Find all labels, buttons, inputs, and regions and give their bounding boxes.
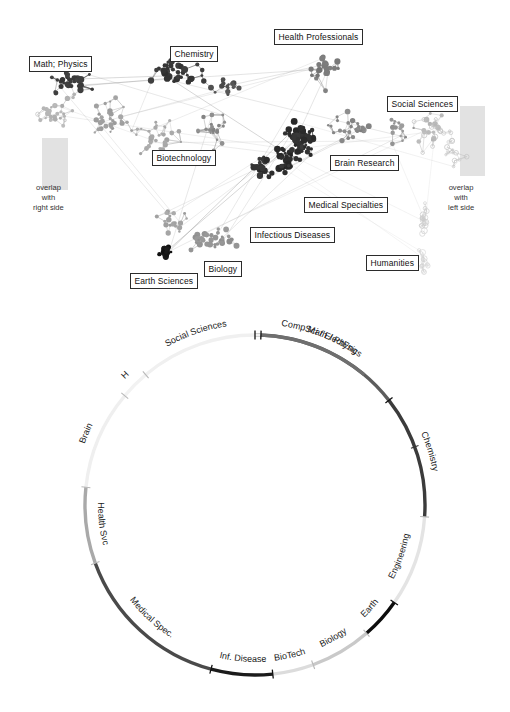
network-node (94, 131, 96, 133)
network-node (357, 125, 360, 128)
network-node (294, 144, 297, 147)
network-node (218, 240, 220, 242)
network-node (269, 170, 274, 175)
network-node (78, 76, 85, 83)
arc-label-h: H (119, 369, 131, 381)
network-node (251, 164, 258, 171)
arc-segment-social-sciences (146, 335, 261, 375)
overlap-left-line: with (33, 193, 64, 203)
network-node (163, 140, 168, 145)
network-node (226, 86, 229, 89)
arc-segment-health-svc (85, 487, 95, 563)
network-node (222, 125, 225, 128)
network-node (155, 124, 158, 127)
network-node (336, 119, 339, 122)
arc-tick (81, 487, 90, 488)
network-node (338, 129, 342, 133)
network-node (346, 121, 350, 125)
network-node (310, 73, 314, 77)
arc-label-chemistry: Chemistry (419, 430, 441, 473)
network-node (154, 139, 158, 143)
network-edge (328, 117, 337, 126)
network-node (154, 68, 159, 73)
arc-label-brain: Brain (77, 421, 95, 445)
network-node (327, 124, 329, 126)
network-node (164, 127, 166, 129)
network-node (49, 115, 53, 119)
network-node (178, 220, 183, 225)
network-node (200, 74, 203, 77)
network-node (140, 128, 142, 130)
network-node (279, 164, 284, 169)
map-label-brain-research: Brain Research (330, 155, 399, 171)
network-node (38, 118, 42, 122)
map-label-chemistry: Chemistry (170, 46, 218, 62)
network-node (208, 85, 214, 91)
network-node (168, 214, 171, 217)
circular-base-map: Math / PhysicsChemistryEngineeringEarthB… (0, 292, 510, 712)
network-node (291, 118, 298, 125)
arc-label-text: Inf. Disease (219, 650, 267, 664)
network-node (232, 84, 236, 88)
network-node (412, 127, 414, 129)
arc-label-medical-spec: Medical Spec. (128, 595, 175, 640)
network-node (67, 76, 70, 79)
arc-label-health-svc: Health Svc (96, 502, 111, 546)
network-node (200, 68, 205, 73)
network-node (309, 67, 314, 72)
network-node (276, 151, 279, 154)
network-node (323, 88, 328, 93)
network-node (147, 130, 150, 133)
network-node (258, 161, 262, 165)
network-node (287, 164, 291, 168)
network-node (172, 211, 176, 215)
network-node (172, 79, 176, 83)
arc-label-text: Biology (318, 625, 349, 649)
network-node (50, 75, 54, 79)
arc-label-compsci-electeng: CompSci / ElectEng (281, 318, 360, 356)
network-node (303, 145, 306, 148)
network-edge (326, 74, 328, 91)
network-node (393, 125, 398, 130)
network-node (72, 92, 76, 96)
network-node (329, 125, 332, 128)
network-node (217, 124, 221, 128)
network-node (282, 170, 287, 175)
network-node (44, 117, 46, 119)
network-node (160, 68, 166, 74)
arc-label-text: BioTech (273, 646, 306, 663)
network-node (349, 125, 353, 129)
network-node (221, 235, 224, 238)
network-node (226, 239, 232, 245)
overlap-right-note: overlapwithleft side (448, 183, 474, 213)
network-node (300, 149, 304, 153)
network-node (90, 87, 94, 91)
circular-base-map-panel: Math / PhysicsChemistryEngineeringEarthB… (0, 292, 510, 712)
network-node (169, 131, 174, 136)
overlap-left-line: right side (33, 203, 64, 213)
network-node (154, 121, 157, 124)
network-node (148, 77, 154, 83)
network-node (97, 127, 101, 131)
network-node (216, 231, 219, 234)
network-node (204, 128, 207, 131)
network-node (94, 103, 99, 108)
network-node (210, 113, 215, 118)
map-label-biotechnology: Biotechnology (152, 150, 216, 166)
overlap-right-line: overlap (448, 183, 474, 193)
network-node (346, 136, 350, 140)
network-node (397, 121, 400, 124)
network-node (164, 63, 168, 67)
network-node (401, 140, 404, 143)
arc-label-text: Chemistry (419, 430, 441, 473)
arc-segment-biotech (273, 665, 313, 674)
arc-segment-chemistry (389, 400, 425, 517)
network-node (316, 62, 321, 67)
network-node (135, 133, 137, 135)
map-label-earth-sciences: Earth Sciences (130, 273, 198, 289)
map-label-math-physics: Math; Physics (29, 56, 92, 72)
network-node (216, 139, 219, 142)
network-node (60, 104, 64, 108)
network-node (287, 132, 291, 136)
overlap-band-right (460, 106, 485, 176)
